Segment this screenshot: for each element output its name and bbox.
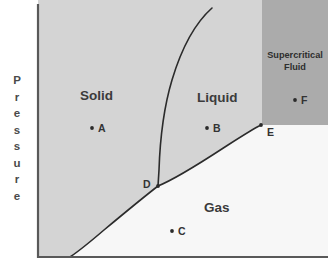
- region-label-supercritical-fluid: Supercritical Fluid: [262, 50, 328, 73]
- point-label-e: E: [267, 126, 274, 138]
- region-label-liquid: Liquid: [197, 90, 238, 105]
- region-label-solid: Solid: [80, 88, 113, 103]
- point-dot-a: [90, 126, 94, 130]
- point-dot-c: [170, 229, 174, 233]
- point-label-d: D: [143, 178, 151, 190]
- point-dot-e: [259, 123, 263, 127]
- point-label-b: B: [213, 122, 221, 134]
- point-label-c: C: [178, 225, 186, 237]
- point-label-f: F: [301, 94, 307, 106]
- phase-diagram-plot: [0, 0, 328, 268]
- point-label-a: A: [98, 122, 106, 134]
- point-dot-d: [156, 184, 160, 188]
- point-dot-b: [205, 126, 209, 130]
- supercritical-label-line1: Supercritical: [262, 50, 328, 62]
- phase-diagram-figure: P r e s s u r e Solid Liquid Gas Supercr…: [0, 0, 328, 268]
- supercritical-label-line2: Fluid: [262, 62, 328, 74]
- point-dot-f: [293, 98, 297, 102]
- region-label-gas: Gas: [204, 200, 230, 215]
